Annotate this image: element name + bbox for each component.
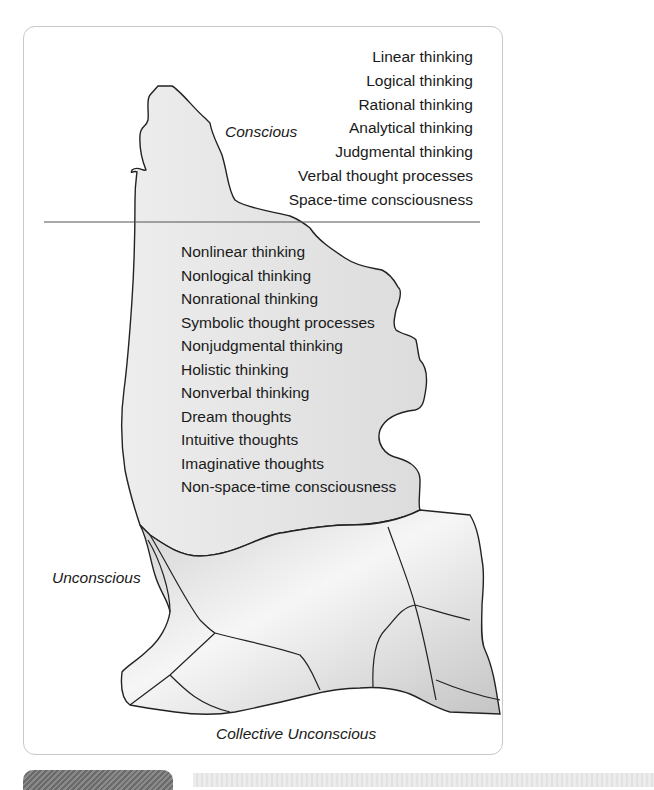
unconscious-item: Dream thoughts [181, 405, 396, 429]
conscious-item: Verbal thought processes [289, 164, 473, 188]
caption-bar-light [193, 773, 654, 787]
caption-tab-dark [23, 770, 173, 790]
unconscious-item: Imaginative thoughts [181, 452, 396, 476]
collective-unconscious-label: Collective Unconscious [216, 722, 376, 746]
unconscious-item: Nonverbal thinking [181, 381, 396, 405]
conscious-items-list: Linear thinking Logical thinking Rationa… [289, 45, 473, 212]
unconscious-item: Nonlogical thinking [181, 264, 396, 288]
unconscious-item: Nonjudgmental thinking [181, 334, 396, 358]
unconscious-item: Non-space-time consciousness [181, 475, 396, 499]
conscious-item: Logical thinking [289, 69, 473, 93]
unconscious-item: Holistic thinking [181, 358, 396, 382]
unconscious-label: Unconscious [52, 566, 141, 590]
conscious-item: Linear thinking [289, 45, 473, 69]
unconscious-item: Intuitive thoughts [181, 428, 396, 452]
unconscious-item: Symbolic thought processes [181, 311, 396, 335]
conscious-item: Judgmental thinking [289, 140, 473, 164]
unconscious-item: Nonlinear thinking [181, 240, 396, 264]
conscious-item: Analytical thinking [289, 116, 473, 140]
unconscious-item: Nonrational thinking [181, 287, 396, 311]
unconscious-items-list: Nonlinear thinking Nonlogical thinking N… [181, 240, 396, 499]
conscious-item: Space-time consciousness [289, 188, 473, 212]
conscious-label: Conscious [225, 120, 297, 144]
conscious-item: Rational thinking [289, 93, 473, 117]
